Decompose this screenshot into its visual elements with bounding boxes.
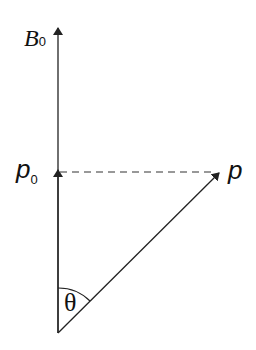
vector-diagram [0,0,256,350]
b0-label: B0 [24,26,46,50]
p-label: p [228,157,242,183]
p-vector-arrow [58,173,219,333]
p0-label: p0 [16,156,38,182]
diagram-canvas: B0 p0 p θ [0,0,256,350]
theta-label: θ [64,290,76,316]
